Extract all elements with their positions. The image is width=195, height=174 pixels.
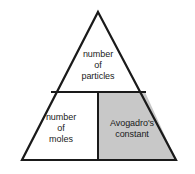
top-cell-fill: [52, 12, 145, 92]
bottom-right-cell-fill: [98, 92, 176, 160]
triangle-shape-group: [0, 0, 195, 174]
formula-triangle-diagram: number of particles number of moles Avog…: [0, 0, 195, 174]
bottom-left-cell-fill: [22, 92, 98, 160]
